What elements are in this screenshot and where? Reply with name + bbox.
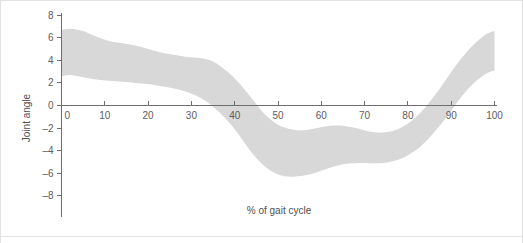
y-tick-label: –8: [42, 190, 54, 201]
x-tick-label: 100: [486, 110, 503, 121]
x-tick-label: 30: [186, 110, 198, 121]
y-tick-label: –6: [42, 168, 54, 179]
joint-angle-chart: 86420–2–4–6–8 0102030405060708090100 Joi…: [0, 0, 523, 243]
x-tick-label: 20: [143, 110, 155, 121]
y-tick-label: 0: [48, 100, 54, 111]
y-axis-title: Joint angle: [21, 93, 32, 142]
y-tick-label: –2: [42, 123, 54, 134]
x-tick-label: 80: [402, 110, 414, 121]
chart-figure: 86420–2–4–6–8 0102030405060708090100 Joi…: [0, 0, 523, 243]
y-tick-label: 2: [48, 77, 54, 88]
x-tick-label: 70: [359, 110, 371, 121]
y-axis-ticks: 86420–2–4–6–8: [42, 10, 61, 202]
x-tick-label: 60: [316, 110, 328, 121]
x-tick-label: 40: [229, 110, 241, 121]
y-tick-label: 6: [48, 32, 54, 43]
x-tick-label: 0: [65, 110, 71, 121]
y-tick-label: 8: [48, 10, 54, 21]
y-tick-label: 4: [48, 55, 54, 66]
x-tick-label: 10: [99, 110, 111, 121]
x-tick-label: 90: [446, 110, 458, 121]
x-tick-label: 50: [272, 110, 284, 121]
y-tick-label: –4: [42, 145, 54, 156]
x-axis-title: % of gait cycle: [247, 205, 312, 216]
